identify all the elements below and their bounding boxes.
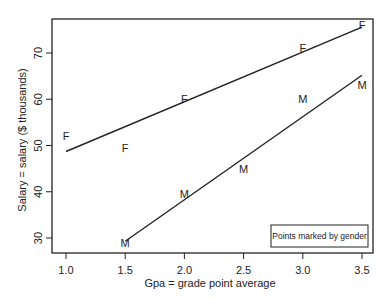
y-axis: 3040506070 [32,47,52,244]
point-marker-f: F [359,19,366,31]
y-tick-label: 40 [32,186,44,198]
x-tick-label: 1.5 [118,264,133,276]
point-marker-f: F [122,142,129,154]
point-marker-m: M [121,237,130,249]
point-marker-m: M [298,93,307,105]
point-marker-f: F [63,130,70,142]
x-tick-label: 3.5 [354,264,369,276]
x-tick-label: 2.5 [236,264,251,276]
y-axis-title: Salary = salary ($ thousands) [16,68,28,211]
scatter-chart: 1.01.52.02.53.03.5 3040506070 FFFFFMMMMM… [0,0,392,304]
legend-text: Points marked by gender [272,231,367,241]
point-marker-m: M [357,79,366,91]
x-tick-label: 2.0 [177,264,192,276]
point-marker-m: M [239,163,248,175]
point-marker-f: F [299,42,306,54]
x-tick-label: 3.0 [295,264,310,276]
y-tick-label: 30 [32,232,44,244]
y-tick-label: 70 [32,47,44,59]
x-axis: 1.01.52.02.53.03.5 [58,253,369,276]
y-tick-label: 60 [32,93,44,105]
fit-line-f [66,27,362,151]
point-marker-f: F [181,93,188,105]
x-axis-title: Gpa = grade point average [144,277,275,289]
point-marker-m: M [180,188,189,200]
y-tick-label: 50 [32,139,44,151]
x-tick-label: 1.0 [58,264,73,276]
fit-lines [66,27,362,241]
fit-line-m [125,75,362,241]
plot-frame [52,19,373,253]
